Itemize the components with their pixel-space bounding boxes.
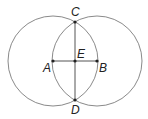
- diagram-canvas: C A B E D: [0, 0, 148, 119]
- label-E: E: [77, 47, 86, 61]
- label-C: C: [71, 5, 80, 19]
- point-C: [73, 20, 76, 23]
- point-A: [51, 59, 54, 62]
- label-D: D: [71, 103, 80, 117]
- label-A: A: [42, 61, 51, 75]
- point-D: [73, 98, 76, 101]
- label-B: B: [99, 61, 107, 75]
